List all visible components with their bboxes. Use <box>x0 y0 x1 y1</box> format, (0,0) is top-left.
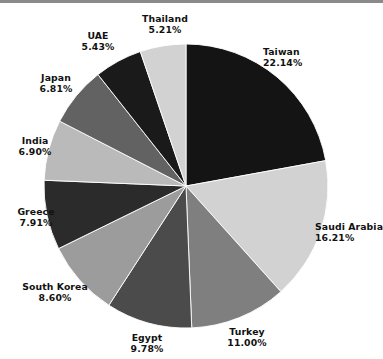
pie-label-uae-name: UAE <box>73 30 123 41</box>
pie-label-taiwan: Taiwan 22.14% <box>263 46 302 69</box>
pie-label-greece-name: Greece <box>6 206 66 217</box>
pie-label-turkey-name: Turkey <box>216 326 278 337</box>
pie-label-greece: Greece 7.91% <box>6 206 66 229</box>
pie-label-thailand: Thailand 5.21% <box>133 13 197 36</box>
pie-label-turkey-value: 11.00% <box>216 337 278 348</box>
pie-label-uae-value: 5.43% <box>73 41 123 52</box>
pie-label-saudi-arabia-name: Saudi Arabia <box>315 221 383 232</box>
pie-label-south-korea: South Korea 8.60% <box>16 281 94 304</box>
pie-label-uae: UAE 5.43% <box>73 30 123 53</box>
pie-label-japan-value: 6.81% <box>29 83 83 94</box>
pie-label-egypt: Egypt 9.78% <box>116 332 178 355</box>
pie-label-south-korea-value: 8.60% <box>16 292 94 303</box>
pie-chart-canvas <box>0 0 383 359</box>
pie-label-greece-value: 7.91% <box>6 217 66 228</box>
pie-label-japan: Japan 6.81% <box>29 72 83 95</box>
pie-label-thailand-name: Thailand <box>133 13 197 24</box>
pie-label-south-korea-name: South Korea <box>16 281 94 292</box>
pie-label-saudi-arabia: Saudi Arabia 16.21% <box>315 221 383 244</box>
pie-label-turkey: Turkey 11.00% <box>216 326 278 349</box>
pie-label-taiwan-name: Taiwan <box>263 46 302 57</box>
pie-label-egypt-value: 9.78% <box>116 343 178 354</box>
pie-label-india: India 6.90% <box>8 135 62 158</box>
pie-label-thailand-value: 5.21% <box>133 24 197 35</box>
pie-label-taiwan-value: 22.14% <box>263 57 302 68</box>
pie-label-saudi-arabia-value: 16.21% <box>315 232 383 243</box>
pie-label-india-value: 6.90% <box>8 146 62 157</box>
pie-label-egypt-name: Egypt <box>116 332 178 343</box>
pie-label-japan-name: Japan <box>29 72 83 83</box>
pie-chart-figure: Taiwan 22.14% Saudi Arabia 16.21% Turkey… <box>0 0 383 359</box>
pie-label-india-name: India <box>8 135 62 146</box>
